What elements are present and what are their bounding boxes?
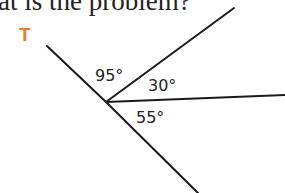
ray-right <box>106 95 285 102</box>
angle-label-95: 95° <box>95 66 123 85</box>
angle-label-30: 30° <box>148 76 176 95</box>
angle-label-55: 55° <box>136 108 164 127</box>
angle-diagram <box>0 0 285 193</box>
